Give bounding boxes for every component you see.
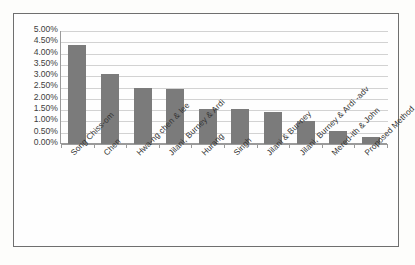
y-tick-label: 1.50% [14, 103, 58, 114]
x-tick [224, 144, 225, 148]
bar [199, 109, 217, 144]
y-tick-label: 2.50% [14, 80, 58, 91]
bar [101, 74, 119, 144]
y-tick-label: 4.00% [14, 47, 58, 58]
x-tick [94, 144, 95, 148]
bar [297, 121, 315, 144]
x-tick [257, 144, 258, 148]
y-tick-label: 3.00% [14, 69, 58, 80]
x-tick [61, 144, 62, 148]
bar [362, 137, 380, 144]
bar [166, 89, 184, 144]
x-tick [354, 144, 355, 148]
x-tick [289, 144, 290, 148]
x-tick [191, 144, 192, 148]
bar [134, 88, 152, 144]
y-tick-label: 1.00% [14, 114, 58, 125]
x-tick [126, 144, 127, 148]
bar [329, 131, 347, 144]
y-tick-label: 0.00% [14, 137, 58, 148]
bar [68, 45, 86, 144]
x-tick [322, 144, 323, 148]
y-tick-label: 0.50% [14, 126, 58, 137]
bar [231, 109, 249, 144]
x-tick [387, 144, 388, 148]
y-tick-label: 3.50% [14, 58, 58, 69]
bar-series [61, 31, 387, 144]
y-axis-tick-labels: 5.00% 4.50% 4.00% 3.50% 3.00% 2.50% 2.00… [14, 24, 58, 148]
y-tick-label: 4.50% [14, 35, 58, 46]
y-tick-label: 2.00% [14, 92, 58, 103]
x-tick [159, 144, 160, 148]
y-tick-label: 5.00% [14, 24, 58, 35]
bar [264, 112, 282, 144]
